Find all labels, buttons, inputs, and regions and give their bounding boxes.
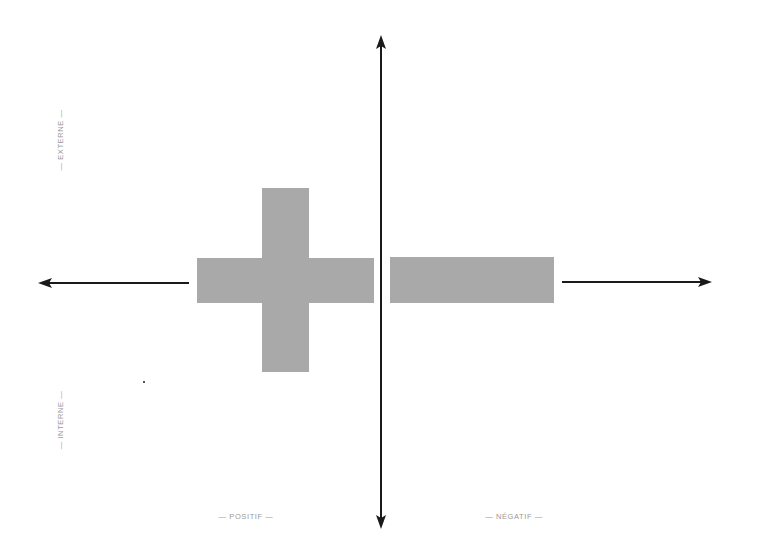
- scan-speck: [143, 381, 145, 383]
- vertical-axis: [376, 35, 386, 529]
- left-axis-arrow: [38, 278, 189, 288]
- plus-horizontal-bar: [197, 258, 374, 303]
- axes-diagram: [0, 0, 764, 554]
- label-externe: — EXTERNE —: [56, 109, 65, 170]
- label-interne: — INTERNE —: [56, 391, 65, 450]
- right-axis-arrow: [562, 277, 712, 287]
- label-negatif: — NÉGATIF —: [485, 512, 543, 521]
- label-positif: — POSITIF —: [219, 512, 274, 521]
- minus-sign: [390, 257, 554, 303]
